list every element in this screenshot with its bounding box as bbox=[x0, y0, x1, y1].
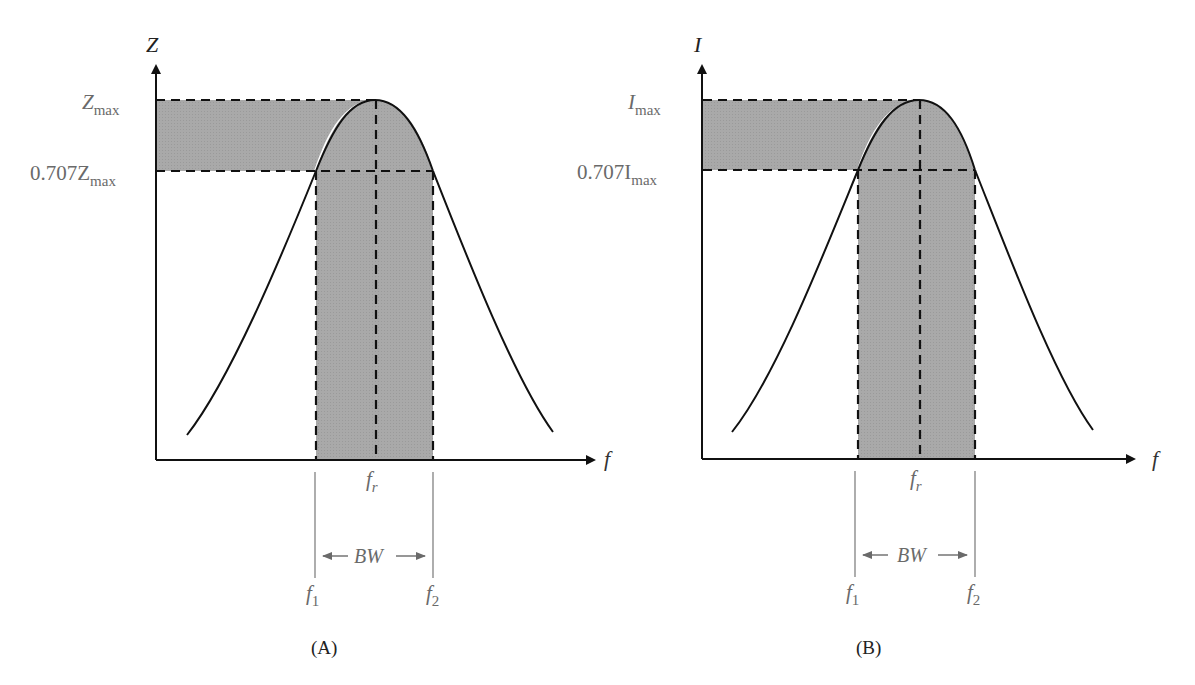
x-axis-label: f bbox=[1152, 446, 1161, 471]
fr-label: fr bbox=[910, 466, 922, 494]
f1-sub: 1 bbox=[852, 592, 860, 608]
ymax-sub: max bbox=[94, 102, 120, 118]
f1-label: f1 bbox=[846, 580, 859, 608]
yhalf-main: 0.707I bbox=[577, 160, 631, 184]
panel-b: I f Imax 0.707Imax fr BW f1 f2 (B) bbox=[577, 32, 1161, 659]
yhalf-label: 0.707Imax bbox=[577, 160, 658, 188]
fr-sub: r bbox=[372, 479, 378, 495]
yhalf-label: 0.707Zmax bbox=[30, 161, 116, 189]
f2-label: f2 bbox=[967, 580, 980, 608]
ymax-main: Z bbox=[82, 90, 94, 114]
panel-a: Z f Zmax 0.707Zmax fr BW f1 f2 (A) bbox=[30, 32, 613, 659]
yhalf-sub: max bbox=[631, 172, 657, 188]
ymax-label: Imax bbox=[627, 90, 661, 118]
f2-sub: 2 bbox=[432, 593, 440, 609]
yhalf-main: 0.707Z bbox=[30, 161, 90, 185]
ymax-sub: max bbox=[635, 102, 661, 118]
caption-b: (B) bbox=[856, 637, 881, 659]
y-axis-label: I bbox=[693, 32, 703, 57]
shaded-band-vertical bbox=[316, 100, 433, 460]
f2-label: f2 bbox=[426, 581, 439, 609]
fr-label: fr bbox=[366, 467, 378, 495]
y-axis-label: Z bbox=[146, 32, 159, 57]
resonance-diagram: Z f Zmax 0.707Zmax fr BW f1 f2 (A) bbox=[0, 0, 1195, 685]
ymax-label: Zmax bbox=[82, 90, 120, 118]
fr-sub: r bbox=[916, 478, 922, 494]
f1-sub: 1 bbox=[312, 593, 320, 609]
caption-a: (A) bbox=[311, 637, 337, 659]
f2-sub: 2 bbox=[973, 592, 981, 608]
yhalf-sub: max bbox=[90, 173, 116, 189]
shaded-band-vertical bbox=[858, 100, 975, 459]
bw-label: BW bbox=[897, 544, 928, 566]
f1-label: f1 bbox=[306, 581, 319, 609]
x-axis-label: f bbox=[604, 446, 613, 471]
bw-label: BW bbox=[354, 545, 385, 567]
